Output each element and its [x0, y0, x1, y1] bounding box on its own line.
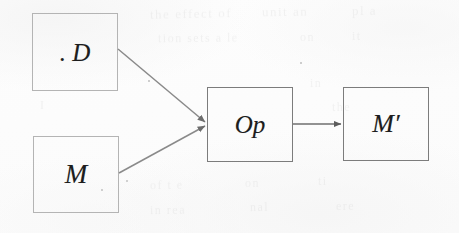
node-m-label: M — [65, 161, 88, 188]
scan-speck — [148, 80, 150, 82]
bleed-through-text: on — [245, 176, 260, 191]
scan-speck — [300, 62, 302, 64]
diagram-canvas: the effect ofunit anpl ation sets a leon… — [0, 0, 459, 233]
node-op-label: Op — [235, 112, 266, 137]
node-op[interactable]: Op — [207, 87, 293, 162]
bleed-through-text: nal — [250, 200, 269, 215]
bleed-through-text: unit an — [262, 4, 308, 21]
bleed-through-text: pl a — [352, 3, 377, 19]
bleed-through-text: of t e — [150, 178, 184, 194]
bleed-through-text: in — [310, 76, 322, 91]
bleed-through-text: tion sets a le — [158, 31, 239, 47]
edge-m-to-op — [119, 126, 205, 173]
scan-speck — [126, 180, 128, 182]
node-mprime-label: M′ — [372, 111, 399, 137]
node-d-label: . D — [60, 40, 91, 65]
bleed-through-text: ere — [336, 199, 355, 214]
node-d[interactable]: . D — [32, 13, 118, 91]
edge-d-to-op — [118, 49, 205, 122]
bleed-through-text: in rea — [150, 203, 186, 219]
bleed-through-text: on — [300, 30, 315, 45]
bleed-through-text: I — [40, 98, 46, 113]
node-mprime[interactable]: M′ — [343, 87, 429, 161]
bleed-through-text: the effect of — [150, 5, 232, 23]
node-m[interactable]: M — [33, 136, 119, 213]
bleed-through-text: it — [352, 29, 362, 44]
bleed-through-text: ti — [318, 174, 328, 189]
